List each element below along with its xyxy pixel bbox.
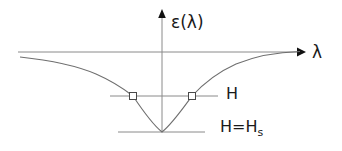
- intersection-marker-right: [189, 93, 196, 100]
- intersection-marker-left: [130, 93, 137, 100]
- x-axis-label: λ: [312, 44, 322, 61]
- level-label-hs: H=Hs: [220, 119, 263, 138]
- level-label-hs-text: H=H: [220, 117, 257, 136]
- level-label-h: H: [226, 86, 238, 102]
- level-label-hs-subscript: s: [257, 126, 263, 139]
- up-arrow-icon: [158, 9, 166, 18]
- absorption-curve-figure: ε(λ) λ H H=Hs: [0, 0, 342, 151]
- y-axis-label: ε(λ): [171, 14, 204, 31]
